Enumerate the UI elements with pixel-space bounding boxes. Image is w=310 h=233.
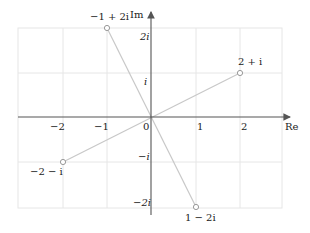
point-label: 2 + i [238, 56, 262, 67]
point-2-plus-i [237, 70, 242, 75]
x-tick-label: 1 [197, 121, 203, 132]
axes [18, 12, 290, 215]
x-tick-label: −1 [94, 121, 109, 132]
point-1-minus-2i [193, 204, 198, 209]
x-tick-label: 2 [241, 121, 247, 132]
y-tick-label: i [144, 76, 147, 87]
point-neg1-plus-2i [104, 25, 109, 30]
y-tick-label: 2i [139, 31, 150, 42]
x-tick-label: 0 [143, 121, 149, 132]
real-axis-label: Re [285, 121, 299, 132]
x-tick-label: −2 [50, 121, 65, 132]
point-label: −2 − i [30, 166, 63, 177]
point-neg2-minus-i [60, 159, 65, 164]
imag-axis-label: Im [130, 9, 144, 20]
y-tick-label: −i [138, 151, 150, 162]
y-tick-label: −2i [133, 197, 151, 208]
point-label: 1 − 2i [185, 212, 216, 223]
point-label: −1 + 2i [90, 11, 129, 22]
complex-plane-diagram: Re Im −2 −1 0 1 2 2i i −i −2i −1 + 2i 2 … [0, 0, 310, 233]
